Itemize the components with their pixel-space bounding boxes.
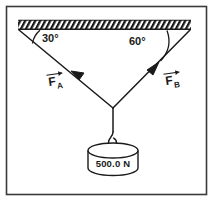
- ceiling-hatching: [18, 20, 191, 29]
- weight-label: 500.0 N: [96, 158, 131, 169]
- weight-top-ellipse: [88, 143, 138, 158]
- diagram-canvas: 30° 60° F A F B 500.0 N: [0, 0, 213, 201]
- angle-label-left: 30°: [42, 32, 59, 44]
- angle-label-right: 60°: [129, 35, 146, 47]
- physics-diagram-figure: 30° 60° F A F B 500.0 N: [0, 0, 213, 201]
- weight-cylinder: 500.0 N: [88, 143, 138, 176]
- ceiling-support: [18, 20, 191, 29]
